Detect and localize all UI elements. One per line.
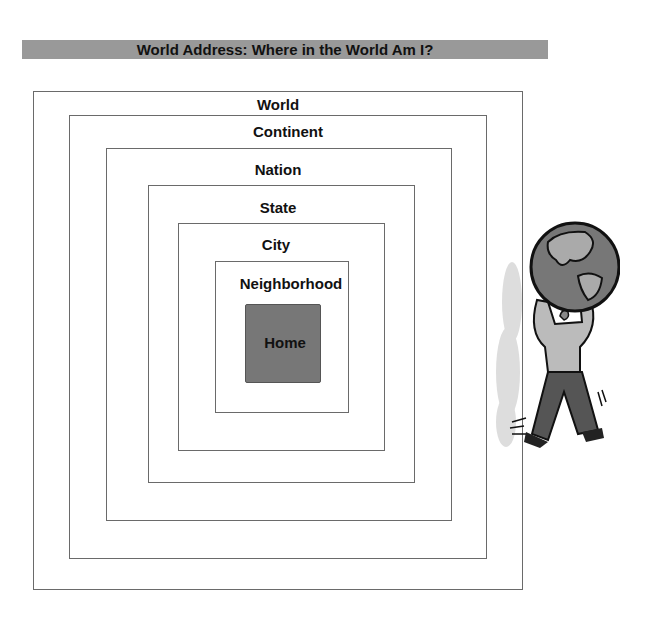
label-continent: Continent [228,123,348,140]
label-world: World [228,96,328,113]
diagram-title: World Address: Where in the World Am I? [22,40,548,59]
label-nation: Nation [228,161,328,178]
label-home: Home [245,334,325,351]
label-city: City [226,236,326,253]
person-carrying-globe-illustration [490,212,620,461]
label-neighborhood: Neighborhood [226,275,356,292]
label-state: State [228,199,328,216]
